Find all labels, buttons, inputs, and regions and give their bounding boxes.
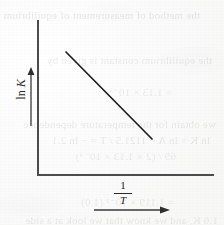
bleed-through-line: = 1.13 × 10⁻⁴ [109, 86, 172, 99]
bleed-through-line: we obtain for the temperature dependence [23, 118, 216, 130]
y-axis-line [37, 20, 39, 176]
x-axis-label: 1 T [112, 180, 134, 206]
x-axis-line [37, 174, 214, 176]
up-arrow-icon [25, 66, 37, 128]
fraction-numerator: 1 [112, 180, 134, 192]
bleed-through-line: the equilibrium constant is given by [47, 54, 212, 66]
bleed-through-line: the method of measurement of equilibrium [4, 9, 200, 21]
right-arrow-icon [92, 204, 172, 216]
figure-container: the method of measurement of equilibrium… [0, 0, 224, 225]
x-axis-label-group: 1 T [98, 180, 172, 220]
bleed-through-line: 69 / (2 × 1.13 × 10⁻⁴) [76, 150, 176, 163]
bleed-through-line: ln K = ln A − 1121.5 / T = − ln 2.1 [52, 134, 210, 146]
y-axis-label-group: ln K [8, 64, 34, 130]
